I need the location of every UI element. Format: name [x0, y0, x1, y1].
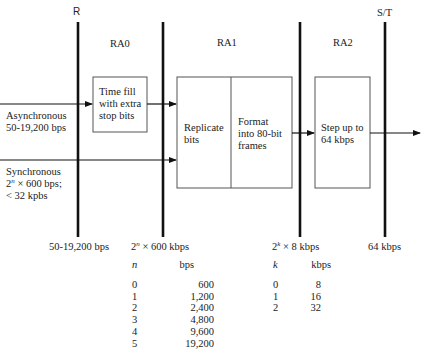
label-r: R	[73, 6, 80, 18]
table-row: 11,200	[132, 291, 214, 303]
table-row: 232	[273, 302, 331, 314]
label-ra1: RA1	[217, 37, 237, 49]
table-n-header: n bps	[132, 259, 214, 271]
step-up-line1: Step up to	[321, 122, 364, 134]
rate-ra2: 2k × 8 kbps	[272, 241, 319, 253]
async-label-line1: Asynchronous	[6, 110, 67, 122]
label-st: S/T	[377, 7, 392, 19]
table-row: 519,200	[132, 338, 214, 350]
table-row: 22,400	[132, 302, 214, 314]
async-label-line2: 50-19,200 bps	[6, 122, 66, 134]
label-ra2: RA2	[333, 37, 353, 49]
table-row: 116	[273, 291, 331, 303]
table-k: k kbps 08 116 232	[273, 259, 331, 314]
rate-r: 50-19,200 bps	[49, 241, 109, 253]
format-line1: Format	[238, 116, 268, 128]
sync-label-line3: < 32 kpbs	[6, 190, 48, 202]
table-row: 0600	[132, 279, 214, 291]
rate-ra1: 2n × 600 kbps	[131, 241, 189, 253]
table-row: 49,600	[132, 326, 214, 338]
format-line3: frames	[238, 140, 267, 152]
step-up-line2: 64 kbps	[321, 134, 354, 146]
sync-label-line2: 2n × 600 bps;	[6, 178, 62, 190]
time-fill-line1: Time fill	[99, 86, 136, 98]
label-ra0: RA0	[110, 38, 130, 50]
table-row: 08	[273, 279, 331, 291]
table-k-header: k kbps	[273, 259, 331, 271]
format-line2: into 80-bit	[238, 128, 282, 140]
table-n: n bps 0600 11,200 22,400 34,800 49,600 5…	[132, 259, 214, 350]
table-row: 34,800	[132, 314, 214, 326]
time-fill-line3: stop bits	[99, 110, 134, 122]
time-fill-line2: with extra	[99, 98, 141, 110]
rate-st: 64 kbps	[368, 241, 401, 253]
diagram-lines	[0, 0, 428, 355]
replicate-line1: Replicate	[184, 122, 224, 134]
replicate-line2: bits	[184, 134, 199, 146]
